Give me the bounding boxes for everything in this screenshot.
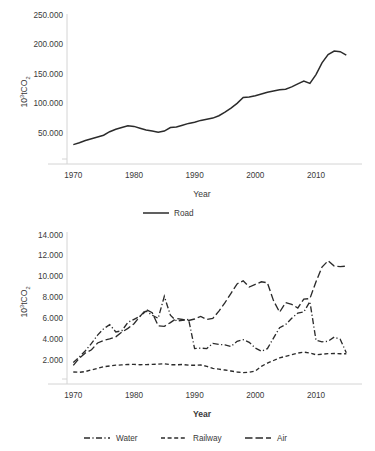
- modes-ylabel-unit: tCO: [19, 289, 29, 305]
- road-chart-panel: 250.000 200.000 150.000 100.000 50.000 1…: [0, 0, 375, 220]
- modes-ytick-4000: 4.000: [43, 335, 64, 344]
- road-ytick-200000: 200.000: [33, 40, 63, 49]
- modes-legend: Water Railway Air: [84, 434, 287, 443]
- modes-ytick-14000: 14.000: [38, 231, 63, 240]
- road-ytick-150000: 150.000: [33, 70, 63, 79]
- road-series-line: [73, 51, 346, 145]
- modes-ytick-12000: 12.000: [38, 251, 63, 260]
- road-x-axis-tick-labels: 1970 1980 1990 2000 2010: [64, 171, 325, 180]
- road-xtick-2000: 2000: [246, 171, 265, 180]
- road-ytick-100000: 100.000: [33, 99, 63, 108]
- modes-chart-svg: 14.000 12.000 10.000 8.000 6.000 4.000 2…: [0, 220, 375, 451]
- road-ytick-50000: 50.000: [38, 129, 63, 138]
- modes-xtick-1980: 1980: [125, 391, 144, 400]
- svg-text:103tCO2: 103tCO2: [19, 286, 31, 317]
- modes-y-axis-tick-labels: 14.000 12.000 10.000 8.000 6.000 4.000 2…: [38, 231, 63, 365]
- road-xtick-2010: 2010: [307, 171, 326, 180]
- railway-series-line: [73, 352, 346, 373]
- modes-ytick-8000: 8.000: [43, 293, 64, 302]
- road-y-axis-tick-labels: 250.000 200.000 150.000 100.000 50.000: [33, 11, 63, 138]
- modes-xtick-2000: 2000: [246, 391, 265, 400]
- road-legend: Road: [143, 209, 194, 218]
- road-y-axis-title: 103tCO2: [19, 76, 31, 107]
- modes-ytick-2000: 2.000: [43, 356, 64, 365]
- railway-legend-label: Railway: [193, 434, 223, 443]
- road-xtick-1990: 1990: [185, 171, 204, 180]
- modes-y-axis-title: 103tCO2: [19, 286, 31, 317]
- road-ytick-250000: 250.000: [33, 11, 63, 20]
- air-legend-label: Air: [277, 434, 287, 443]
- modes-x-axis-tick-labels: 1970 1980 1990 2000 2010: [64, 391, 325, 400]
- air-series-line: [73, 261, 346, 366]
- road-xtick-1970: 1970: [64, 171, 83, 180]
- modes-xtick-2010: 2010: [307, 391, 326, 400]
- road-xtick-1980: 1980: [125, 171, 144, 180]
- svg-text:103tCO2: 103tCO2: [19, 76, 31, 107]
- modes-ytick-10000: 10.000: [38, 272, 63, 281]
- figure-container: 250.000 200.000 150.000 100.000 50.000 1…: [0, 0, 375, 451]
- road-x-axis-title: Year: [193, 189, 211, 199]
- road-ylabel-sub: 2: [25, 76, 31, 79]
- modes-ytick-6000: 6.000: [43, 314, 64, 323]
- road-ylabel-unit: tCO: [19, 79, 29, 95]
- modes-chart-panel: 14.000 12.000 10.000 8.000 6.000 4.000 2…: [0, 220, 375, 451]
- modes-ylabel-base: 10: [19, 308, 29, 318]
- modes-xtick-1970: 1970: [64, 391, 83, 400]
- modes-ylabel-sub: 2: [25, 286, 31, 289]
- road-chart-svg: 250.000 200.000 150.000 100.000 50.000 1…: [0, 0, 375, 220]
- road-legend-label: Road: [174, 209, 194, 218]
- water-legend-label: Water: [116, 434, 138, 443]
- modes-x-axis-title: Year: [193, 409, 212, 419]
- modes-xtick-1990: 1990: [185, 391, 204, 400]
- road-ylabel-base: 10: [19, 98, 29, 108]
